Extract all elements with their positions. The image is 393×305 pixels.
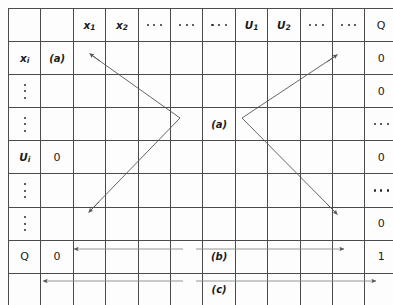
cell-blank [106,273,138,305]
header-hdots-1 [138,9,170,42]
cell-blank [300,75,332,108]
cell-blank [235,75,267,108]
cell-blank [106,42,138,75]
cell-blank [171,207,203,240]
cell-blank [73,240,105,273]
cell-blank [73,174,105,207]
cell-a-topleft: (a) [41,42,73,75]
table-row-Q: Q 0 (b) 1 [9,240,393,273]
cell-blank [41,273,73,305]
table-row-vdots-3 [9,174,393,207]
hdots-glyph [139,24,170,26]
row-label-blank [9,273,41,305]
cell-zero-Q: 0 [41,240,73,273]
cell-Q-zero-1: 0 [365,42,393,75]
table-row-header: x1 x2 U1 U2 Q [9,9,393,42]
cell-blank [333,174,365,207]
table-row-xi: xi (a) 0 [9,42,393,75]
header-x1-sub: 1 [90,23,95,32]
cell-blank [203,75,235,108]
row-label-xi: xi [9,42,41,75]
table-row-vdots-2: (a) [9,108,393,141]
cell-blank [300,42,332,75]
cell-blank [106,141,138,174]
hdots-glyph [171,24,202,26]
header-x2-sub: 2 [123,23,128,32]
header-hdots-2 [171,9,203,42]
cell-blank [333,141,365,174]
cell-blank [73,108,105,141]
cell-blank [235,174,267,207]
cell-blank [106,108,138,141]
cell-blank [300,240,332,273]
table-row-vdots-1: 0 [9,75,393,108]
cell-blank [268,42,300,75]
table-row-c: (c) [9,273,393,305]
header-x1: x1 [73,9,105,42]
row-label-xi-sub: i [27,56,30,65]
cell-blank [73,141,105,174]
center-label-a: (a) [203,108,235,141]
row-label-vdots-2 [9,108,41,141]
cell-blank [138,174,170,207]
cell-blank [73,273,105,305]
row-label-Ui: Ui [9,141,41,174]
row-label-vdots-1 [9,75,41,108]
cell-blank [106,207,138,240]
cell-blank [300,207,332,240]
cell-Q-hdots-1 [365,108,393,141]
corner-blank-2 [41,9,73,42]
vdots-glyph [9,214,40,233]
vdots-glyph [9,181,40,200]
cell-blank [333,42,365,75]
hdots-glyph [333,24,364,26]
cell-blank [73,207,105,240]
table-row-Ui: Ui 0 0 [9,141,393,174]
cell-blank [73,75,105,108]
cell-zero-Ui: 0 [41,141,73,174]
cell-blank [138,207,170,240]
cell-blank [41,207,73,240]
cell-blank [300,108,332,141]
cell-blank [300,174,332,207]
row-label-vdots-4 [9,207,41,240]
header-U1: U1 [235,9,267,42]
cell-blank [235,207,267,240]
matrix-grid: x1 x2 U1 U2 Q xi (a) [8,8,393,305]
cell-blank [268,240,300,273]
header-U1-sub: 1 [253,23,258,32]
header-U2-sub: 2 [286,23,291,32]
hdots-glyph [203,24,234,26]
row-label-xi-base: x [20,52,27,64]
row-label-Q: Q [9,240,41,273]
cell-blank [171,108,203,141]
cell-blank [268,207,300,240]
cell-blank [171,141,203,174]
cell-blank [333,273,365,305]
cell-blank [203,174,235,207]
cell-blank [203,42,235,75]
cell-Q-zero-4: 0 [365,207,393,240]
row-label-vdots-3 [9,174,41,207]
cell-blank [138,240,170,273]
cell-blank [235,42,267,75]
cell-blank [235,108,267,141]
corner-blank-1 [9,9,41,42]
header-hdots-4 [300,9,332,42]
header-x2: x2 [106,9,138,42]
cell-blank [203,141,235,174]
cell-blank [171,75,203,108]
cell-blank [333,108,365,141]
cell-Q-zero-2: 0 [365,75,393,108]
cell-blank [333,207,365,240]
cell-Q-hdots-2 [365,174,393,207]
cell-blank [41,75,73,108]
cell-blank [333,75,365,108]
hdots-glyph [365,189,393,191]
cell-blank [268,141,300,174]
cell-blank [138,141,170,174]
cell-blank [235,273,267,305]
header-U2: U2 [268,9,300,42]
matrix-diagram: x1 x2 U1 U2 Q xi (a) [0,0,393,305]
table-row-vdots-4: 0 [9,207,393,240]
